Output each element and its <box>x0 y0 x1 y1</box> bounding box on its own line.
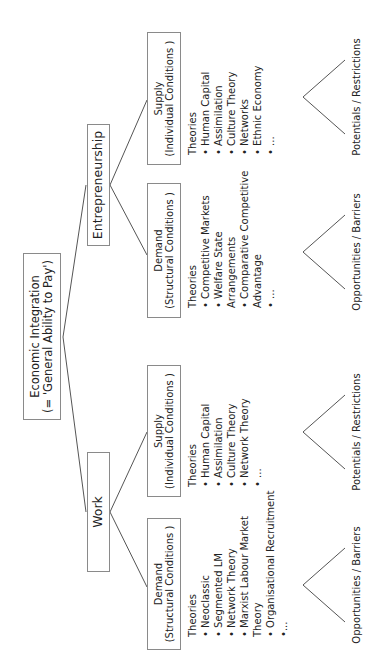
entrepreneurship-supply-subtitle: (Individual Conditions ) <box>164 41 176 157</box>
work-box: Work <box>87 452 110 572</box>
theory-item: Theory <box>251 490 264 637</box>
work-demand-outcome: Opportunities / Barriers <box>351 526 362 643</box>
theory-item: • ... <box>251 398 264 487</box>
theory-item: • Segmented LM <box>212 490 225 637</box>
entrepreneurship-supply-box: Supply (Individual Conditions ) <box>147 32 181 165</box>
theories-header: Theories <box>186 66 199 156</box>
work-demand-subtitle: (Structural Conditions ) <box>164 526 176 643</box>
theory-item: • Culture Theory <box>225 398 238 487</box>
entrepreneurship-demand-subtitle: (Structural Conditions ) <box>164 192 176 309</box>
entrepreneurship-supply-title: Supply <box>153 81 165 115</box>
theory-item: Arrangements <box>225 171 238 308</box>
theory-item: • Human Capital <box>199 66 212 156</box>
work-demand-theories: Theories • Neoclassic • Segmented LM • N… <box>186 490 290 637</box>
theories-header: Theories <box>186 490 199 637</box>
work-supply-outcome: Potentials / Restrictions <box>351 373 362 490</box>
entrepreneurship-demand-outcome: Opportunities / Barriers <box>351 193 362 310</box>
entrepreneurship-supply-outcome: Potentials / Restrictions <box>351 38 362 155</box>
entrepreneurship-box: Entrepreneurship <box>87 124 110 246</box>
theories-header: Theories <box>186 398 199 487</box>
theory-item: • Networks <box>238 66 251 156</box>
theory-item: • Network Theory <box>238 398 251 487</box>
work-demand-title: Demand <box>153 563 165 605</box>
entrepreneurship-label: Entrepreneurship <box>91 131 105 239</box>
entrepreneurship-demand-box: Demand (Structural Conditions ) <box>147 183 181 318</box>
theory-item: • Assimilation <box>212 398 225 487</box>
theory-item: •... <box>277 490 290 637</box>
work-supply-title: Supply <box>153 414 165 448</box>
rotated-diagram: Economic Integration (= 'General Ability… <box>0 0 382 672</box>
theory-item: • Culture Theory <box>225 66 238 156</box>
theories-header: Theories <box>186 171 199 308</box>
work-supply-box: Supply (Individual Conditions ) <box>147 365 181 497</box>
work-label: Work <box>91 496 105 528</box>
entrepreneurship-demand-theories: Theories • Competitive Markets • Welfare… <box>186 171 277 308</box>
theory-item: • ... <box>264 66 277 156</box>
theory-item: • ... <box>264 171 277 308</box>
entrepreneurship-supply-theories: Theories • Human Capital • Assimilation … <box>186 66 277 156</box>
theory-item: • Competitive Markets <box>199 171 212 308</box>
theory-item: • Welfare State <box>212 171 225 308</box>
theory-item: • Comparative Competitive <box>238 171 251 308</box>
work-supply-theories: Theories • Human Capital • Assimilation … <box>186 398 264 487</box>
theory-item: Advantage <box>251 171 264 308</box>
root-subtitle: (= 'General Ability to Pay') <box>42 260 55 413</box>
theory-item: • Assimilation <box>212 66 225 156</box>
economic-integration-box: Economic Integration (= 'General Ability… <box>23 253 61 420</box>
theory-item: • Network Theory <box>225 490 238 637</box>
work-supply-subtitle: (Individual Conditions ) <box>164 373 176 489</box>
theory-item: • Ethnic Economy <box>251 66 264 156</box>
theory-item: • Neoclassic <box>199 490 212 637</box>
theory-item: • Organisational Recruitment <box>264 490 277 637</box>
work-demand-box: Demand (Structural Conditions ) <box>147 518 181 650</box>
theory-item: • Marxist Labour Market <box>238 490 251 637</box>
entrepreneurship-demand-title: Demand <box>153 229 165 271</box>
theory-item: • Human Capital <box>199 398 212 487</box>
